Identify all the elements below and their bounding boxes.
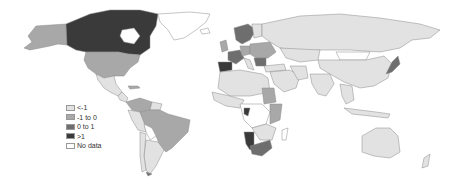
legend-label: 0 to 1: [77, 122, 95, 132]
region-mexico: [96, 74, 122, 96]
legend-item-gt-1: >1: [66, 132, 102, 142]
region-mongolia: [336, 52, 370, 60]
legend-label: >1: [77, 132, 85, 142]
region-east-africa: [270, 104, 282, 124]
region-germany: [240, 46, 250, 56]
region-australia: [362, 128, 400, 158]
region-finland: [252, 24, 262, 38]
region-canada: [66, 10, 158, 55]
region-iceland: [200, 28, 210, 34]
legend-label: No data: [77, 141, 102, 151]
legend-label: <-1: [77, 103, 87, 113]
region-russia: [262, 14, 440, 52]
legend-swatch: [66, 114, 75, 120]
legend-item-minus1-to-0: -1 to 0: [66, 113, 102, 123]
legend-swatch: [66, 143, 75, 149]
region-greenland: [158, 12, 210, 40]
region-guianas: [150, 102, 162, 110]
region-italy: [244, 58, 254, 70]
region-alaska: [24, 24, 67, 50]
region-caribbean: [128, 86, 140, 89]
region-usa: [84, 52, 140, 78]
region-colombia-venezuela: [126, 98, 152, 112]
region-uk: [220, 40, 228, 52]
region-kazakhstan: [280, 48, 320, 62]
region-north-africa: [218, 70, 270, 96]
region-madagascar: [282, 128, 288, 140]
legend-swatch: [66, 124, 75, 130]
legend-item-no-data: No data: [66, 141, 102, 151]
legend-swatch: [66, 133, 75, 139]
legend-swatch: [66, 105, 75, 111]
region-indonesia: [344, 108, 390, 118]
legend-item-0-to-1: 0 to 1: [66, 122, 102, 132]
legend-label: -1 to 0: [77, 113, 97, 123]
legend-item-lt-minus1: <-1: [66, 103, 102, 113]
region-india: [310, 74, 334, 96]
region-balkans: [254, 58, 266, 66]
world-map: [0, 0, 458, 189]
region-spain: [218, 62, 232, 72]
region-eastern-europe: [250, 42, 276, 58]
region-sudan: [262, 88, 276, 104]
map-legend: <-1 -1 to 0 0 to 1 >1 No data: [66, 103, 102, 151]
region-southeast-asia: [340, 84, 354, 104]
region-new-zealand: [422, 154, 430, 168]
